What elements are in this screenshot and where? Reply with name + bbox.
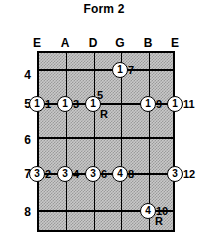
fret-number-column: 45678	[0, 0, 36, 244]
fret-line-2	[39, 137, 173, 139]
degree-label-12: 12	[183, 169, 195, 180]
finger-dot-9[interactable]: 1	[140, 96, 156, 112]
finger-dot-10[interactable]: 4	[140, 203, 156, 219]
string-line-3	[121, 53, 122, 230]
degree-label-8: 8	[128, 169, 134, 180]
degree-label-7: 7	[128, 65, 134, 76]
degree-label-11: 11	[183, 99, 195, 110]
degree-label-6: 6	[101, 169, 107, 180]
string-line-1	[66, 53, 67, 230]
string-line-2	[94, 53, 95, 230]
degree-label-5: 5	[97, 90, 103, 101]
fret-number-8: 8	[13, 206, 31, 218]
root-marker: R	[155, 216, 163, 227]
root-marker: R	[100, 109, 108, 120]
finger-dot-3[interactable]: 1	[57, 96, 73, 112]
finger-dot-6[interactable]: 3	[85, 166, 101, 182]
string-label-4: B	[139, 37, 157, 50]
string-label-5: E	[166, 37, 184, 50]
finger-dot-1[interactable]: 1	[29, 96, 45, 112]
string-label-1: A	[56, 37, 74, 50]
fret-number-6: 6	[13, 134, 31, 146]
finger-dot-7[interactable]: 1	[112, 62, 128, 78]
string-label-2: D	[84, 37, 102, 50]
finger-dot-8[interactable]: 4	[112, 166, 128, 182]
fret-line-0	[39, 69, 173, 71]
fretboard[interactable]	[37, 51, 175, 232]
degree-label-9: 9	[156, 99, 162, 110]
finger-dot-12[interactable]: 3	[167, 166, 183, 182]
degree-label-4: 4	[73, 169, 79, 180]
finger-dot-11[interactable]: 1	[167, 96, 183, 112]
finger-dot-2[interactable]: 3	[29, 166, 45, 182]
string-label-3: G	[111, 37, 129, 50]
degree-label-2: 2	[45, 169, 51, 180]
fret-number-4: 4	[13, 69, 31, 81]
degree-label-1: 1	[45, 99, 51, 110]
finger-dot-4[interactable]: 3	[57, 166, 73, 182]
degree-label-3: 3	[73, 99, 79, 110]
